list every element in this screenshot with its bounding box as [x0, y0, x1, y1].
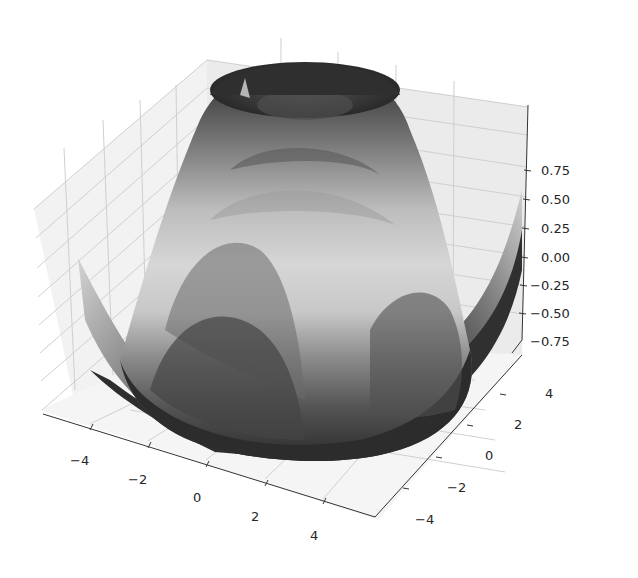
y-tick-label: −4 — [415, 512, 434, 527]
x-tick-label: −2 — [128, 472, 147, 487]
y-tick-label: 0 — [485, 448, 493, 463]
surface-plot-3d: 0.75 0.50 0.25 0.00 −0.25 −0.50 −0.75 −4… — [0, 0, 638, 578]
x-tick-label: −4 — [70, 453, 89, 468]
figure: 0.75 0.50 0.25 0.00 −0.25 −0.50 −0.75 −4… — [0, 0, 638, 578]
z-tick-label: 0.75 — [541, 163, 570, 178]
z-tick-label: −0.50 — [530, 306, 570, 321]
z-tick-label: 0.00 — [541, 250, 570, 265]
z-tick-label: 0.25 — [541, 221, 570, 236]
z-tick-label: −0.75 — [530, 334, 570, 349]
z-tick-label: −0.25 — [530, 278, 570, 293]
x-tick-label: 2 — [251, 509, 259, 524]
y-tick-label: −2 — [447, 480, 466, 495]
x-tick-label: 4 — [310, 528, 318, 543]
x-tick-label: 0 — [193, 490, 201, 505]
y-tick-label: 2 — [514, 417, 522, 432]
y-tick-label: 4 — [545, 386, 553, 401]
z-tick-label: 0.50 — [541, 192, 570, 207]
